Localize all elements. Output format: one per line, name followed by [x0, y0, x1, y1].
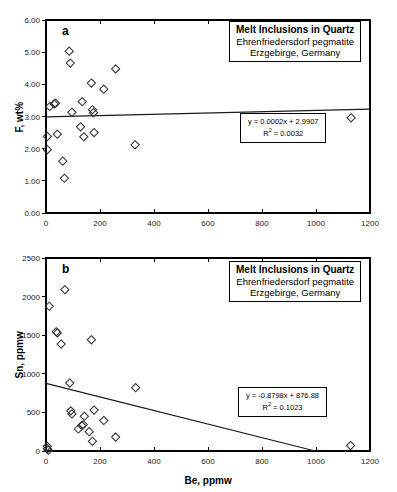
data-point-marker	[59, 157, 67, 165]
r-squared-value-b: = 0.1023	[271, 402, 303, 411]
data-point-marker	[88, 437, 96, 445]
data-point-marker	[60, 174, 68, 182]
data-point-marker	[43, 132, 51, 140]
r-squared-value-a: = 0.0032	[272, 128, 304, 137]
x-tick-label: 1000	[307, 219, 325, 228]
data-point-marker	[80, 133, 88, 141]
x-tick-label: 0	[44, 219, 49, 228]
data-point-marker	[66, 379, 74, 387]
data-point-marker	[131, 141, 139, 149]
y-tick-label: 500	[27, 408, 41, 417]
figure-root: 0.001.002.003.004.005.006.00020040060080…	[0, 0, 397, 492]
chart-panel-b: 0500100015002000250002004006008001000120…	[0, 236, 397, 492]
x-tick-label: 0	[44, 457, 49, 466]
y-tick-label: 0.00	[24, 209, 40, 218]
data-point-marker	[78, 98, 86, 106]
panel-letter-b: b	[62, 262, 69, 276]
data-point-marker	[76, 123, 84, 131]
x-tick-label: 1000	[307, 457, 325, 466]
data-point-marker	[66, 59, 74, 67]
data-point-marker	[65, 47, 73, 55]
chart-title-box-b: Melt Inclusions in Quartz Ehrenfriedersd…	[229, 261, 361, 302]
x-tick-label: 600	[201, 457, 215, 466]
x-tick-label: 200	[93, 457, 107, 466]
data-point-marker	[85, 428, 93, 436]
data-point-marker	[61, 286, 69, 294]
chart-panel-a: 0.001.002.003.004.005.006.00020040060080…	[0, 0, 397, 236]
chart-title-box-a: Melt Inclusions in Quartz Ehrenfriedersd…	[229, 21, 361, 62]
r-squared-b: R2 = 0.1023	[246, 401, 319, 412]
x-tick-label: 200	[93, 219, 107, 228]
title-line-2: Ehrenfriedersdorf pegmatite	[236, 36, 354, 47]
data-point-marker	[347, 114, 355, 122]
x-tick-label: 1200	[361, 219, 379, 228]
data-point-marker	[87, 79, 95, 87]
x-axis-title-b: Be, ppmw	[185, 475, 232, 486]
trendline-equation-box-a: y = 0.0002x + 2.9907 R2 = 0.0032	[240, 113, 326, 143]
y-tick-label: 6.00	[24, 16, 40, 25]
title-line-3: Erzgebirge, Germany	[236, 287, 354, 298]
x-tick-label: 400	[147, 457, 161, 466]
y-tick-label: 5.00	[24, 48, 40, 57]
data-point-marker	[112, 433, 120, 441]
y-tick-label: 4.00	[24, 80, 40, 89]
r-squared-a: R2 = 0.0032	[248, 127, 318, 138]
x-tick-label: 1200	[361, 457, 379, 466]
data-point-marker	[68, 108, 76, 116]
y-tick-label: 1.00	[24, 177, 40, 186]
trendline-equation-box-b: y = -0.8798x + 876.88 R2 = 0.1023	[238, 387, 327, 417]
x-tick-label: 800	[255, 219, 269, 228]
panel-letter-a: a	[62, 24, 69, 38]
title-line-2: Ehrenfriedersdorf pegmatite	[236, 276, 354, 287]
data-point-marker	[43, 146, 51, 154]
y-tick-label: 3.00	[24, 113, 40, 122]
data-point-marker	[132, 384, 140, 392]
data-point-marker	[80, 412, 88, 420]
y-axis-title-b: Sn, ppmw	[14, 331, 25, 378]
data-point-marker	[90, 128, 98, 136]
title-line-1: Melt Inclusions in Quartz	[236, 24, 354, 36]
data-point-marker	[100, 85, 108, 93]
y-tick-label: 2500	[22, 254, 40, 263]
data-point-marker	[87, 336, 95, 344]
title-line-1: Melt Inclusions in Quartz	[236, 264, 354, 276]
data-point-marker	[346, 441, 354, 449]
data-point-marker	[100, 416, 108, 424]
data-point-marker	[57, 340, 65, 348]
data-point-marker	[90, 406, 98, 414]
data-point-marker	[112, 65, 120, 73]
trendline-equation-b: y = -0.8798x + 876.88	[246, 391, 319, 400]
data-point-marker	[53, 130, 61, 138]
y-tick-label: 2000	[22, 293, 40, 302]
trendline-equation-a: y = 0.0002x + 2.9907	[248, 117, 318, 126]
x-tick-label: 400	[147, 219, 161, 228]
y-tick-label: 2.00	[24, 145, 40, 154]
y-axis-title-a: F, wt%	[14, 101, 25, 132]
title-line-3: Erzgebirge, Germany	[236, 47, 354, 58]
x-tick-label: 600	[201, 219, 215, 228]
x-tick-label: 800	[255, 457, 269, 466]
y-tick-label: 0	[36, 447, 41, 456]
